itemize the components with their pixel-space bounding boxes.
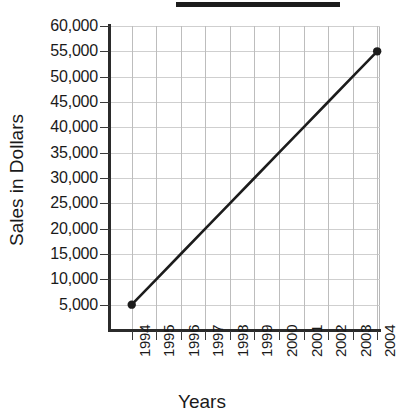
line-chart: 60,00055,00050,00045,00040,00035,00030,0… [0, 0, 404, 418]
series-line [132, 51, 377, 304]
data-point-marker [373, 47, 381, 55]
data-point-marker [128, 300, 136, 308]
y-axis-title: Sales in Dollars [7, 100, 27, 260]
x-axis-title: Years [0, 392, 404, 412]
series-layer [0, 0, 404, 418]
